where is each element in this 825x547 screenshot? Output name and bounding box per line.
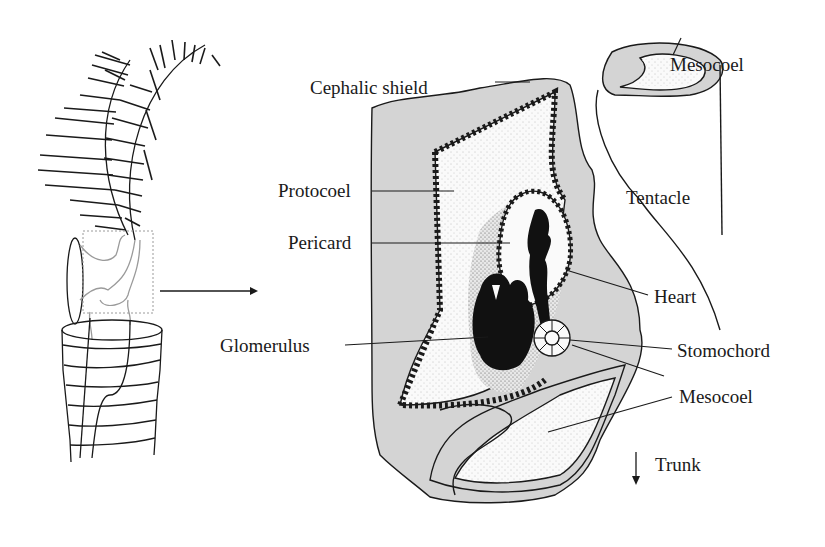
label-mesocoel-top: Mesocoel [670,55,744,74]
label-protocoel: Protocoel [278,181,351,200]
down-arrow-icon [632,452,640,485]
label-pericard: Pericard [288,233,351,252]
label-heart: Heart [654,287,696,306]
right-arrow-icon [160,287,258,295]
label-glomerulus: Glomerulus [220,336,310,355]
whole-animal-drawing [38,40,220,462]
label-tentacle: Tentacle [626,188,690,207]
label-mesocoel-bottom: Mesocoel [679,387,753,406]
label-stomochord: Stomochord [677,341,770,360]
section-drawing [371,43,723,503]
label-cephalic-shield: Cephalic shield [310,78,428,97]
label-trunk: Trunk [655,455,701,474]
enlargement-box [83,231,153,313]
